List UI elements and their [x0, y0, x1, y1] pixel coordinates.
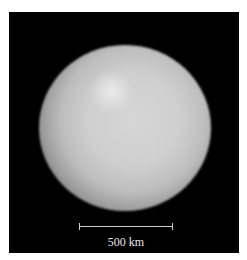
image-frame: 500 km	[9, 12, 239, 253]
scale-bar-label: 500 km	[79, 235, 173, 249]
scale-bar	[79, 226, 173, 227]
planet-disk	[39, 45, 211, 211]
scale-bar-right-tick	[172, 223, 173, 230]
scale-bar-left-tick	[79, 223, 80, 230]
